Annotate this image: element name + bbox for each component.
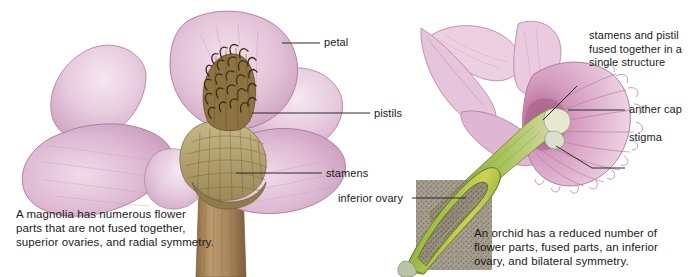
- caption-orchid: An orchid has a reduced number of flower…: [474, 226, 658, 268]
- caption-magnolia: A magnolia has numerous flower parts tha…: [16, 207, 214, 249]
- botany-figure: petal pistils stamens stamens and pistil…: [0, 0, 697, 277]
- orchid-anther-cap-shape: [544, 108, 570, 134]
- label-anther-cap: anther cap: [629, 103, 682, 117]
- label-fused-structure: stamens and pistil fused together in a s…: [589, 29, 682, 70]
- label-stamens: stamens: [326, 167, 368, 181]
- orchid-stigma-shape: [545, 131, 565, 149]
- label-inferior-ovary: inferior ovary: [338, 192, 403, 206]
- label-petal: petal: [324, 36, 348, 50]
- label-pistils: pistils: [374, 107, 402, 121]
- label-stigma: stigma: [629, 131, 662, 145]
